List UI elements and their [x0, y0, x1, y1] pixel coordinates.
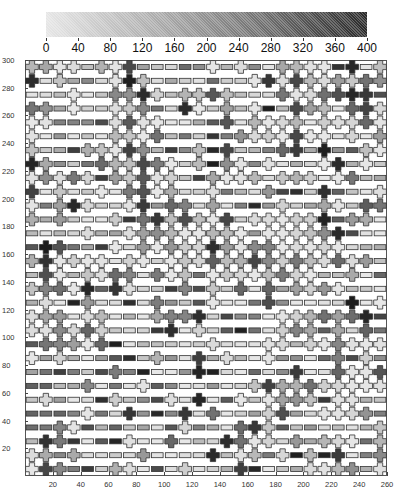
cross-glyph [109, 393, 122, 406]
colorbar-tick-label: 80 [104, 41, 117, 55]
cross-glyph [67, 61, 80, 74]
cross-glyph [290, 269, 303, 282]
bar-glyph [249, 314, 261, 319]
cross-glyph [360, 102, 373, 115]
bar-glyph [151, 286, 163, 291]
bar-glyph [54, 300, 66, 305]
bar-glyph [346, 231, 358, 236]
cross-glyph [53, 199, 66, 212]
cross-glyph [67, 88, 80, 101]
cross-glyph [207, 171, 220, 184]
cross-glyph [123, 227, 136, 240]
cross-glyph [360, 144, 373, 157]
cross-glyph [276, 241, 289, 254]
cross-glyph [248, 255, 261, 268]
bar-glyph [263, 106, 275, 111]
cross-glyph [262, 338, 275, 351]
colorbar-tick-label: 200 [196, 41, 216, 55]
bar-glyph [151, 370, 163, 375]
y-tick-label: 120 [2, 305, 15, 314]
cross-glyph [276, 379, 289, 392]
bar-glyph [235, 203, 247, 208]
x-tick [53, 472, 54, 476]
y-tick [25, 171, 28, 172]
bar-glyph [68, 314, 80, 319]
cross-glyph [81, 407, 94, 420]
cross-glyph [137, 227, 150, 240]
y-tick [25, 254, 28, 255]
bar-glyph [151, 328, 163, 333]
bar-glyph [193, 120, 205, 125]
bar-glyph [249, 411, 261, 416]
bar-glyph [291, 342, 303, 347]
bar-glyph [137, 328, 149, 333]
cross-glyph [290, 88, 303, 101]
bar-glyph [221, 411, 233, 416]
bar-glyph [193, 189, 205, 194]
cross-glyph [304, 171, 317, 184]
x-tick-label: 240 [353, 480, 366, 489]
y-tick-label: 60 [2, 388, 10, 397]
y-tick [25, 88, 28, 89]
bar-glyph [360, 286, 372, 291]
bar-glyph [374, 217, 386, 222]
bar-glyph [360, 397, 372, 402]
cross-glyph [221, 435, 234, 448]
cross-glyph [248, 130, 261, 143]
cross-glyph [193, 88, 206, 101]
bar-glyph [193, 286, 205, 291]
bar-glyph [374, 356, 386, 361]
bar-glyph [332, 148, 344, 153]
cross-glyph [248, 213, 261, 226]
bar-glyph [82, 467, 94, 472]
cross-glyph [346, 393, 359, 406]
cross-glyph [40, 171, 53, 184]
bar-glyph [68, 439, 80, 444]
bar-glyph [207, 370, 219, 375]
cross-glyph [137, 213, 150, 226]
bar-glyph [249, 231, 261, 236]
cross-glyph [290, 227, 303, 240]
bar-glyph [305, 162, 317, 167]
cross-glyph [67, 255, 80, 268]
cross-glyph [81, 338, 94, 351]
bar-glyph [54, 148, 66, 153]
bar-glyph [26, 370, 38, 375]
y-tick-label: 140 [2, 277, 15, 286]
cross-glyph [332, 158, 345, 171]
bar-glyph [249, 162, 261, 167]
cross-glyph [193, 241, 206, 254]
bar-glyph [179, 356, 191, 361]
cross-glyph [290, 144, 303, 157]
x-tick [331, 472, 332, 476]
cross-glyph [318, 213, 331, 226]
cross-glyph [360, 158, 373, 171]
cross-glyph [151, 269, 164, 282]
bar-glyph [235, 383, 247, 388]
cross-glyph [193, 144, 206, 157]
x-tick-label: 100 [158, 480, 171, 489]
bar-glyph [193, 272, 205, 277]
cross-glyph [40, 102, 53, 115]
bar-glyph [235, 411, 247, 416]
cross-glyph [248, 449, 261, 462]
cross-glyph [276, 449, 289, 462]
cross-glyph [374, 296, 387, 309]
bar-glyph [360, 231, 372, 236]
cross-glyph [318, 74, 331, 87]
cross-glyph [151, 213, 164, 226]
cross-glyph [262, 213, 275, 226]
cross-glyph [360, 213, 373, 226]
cross-glyph [346, 116, 359, 129]
bar-glyph [305, 148, 317, 153]
bar-glyph [96, 286, 108, 291]
bar-glyph [360, 245, 372, 250]
cross-glyph [276, 338, 289, 351]
bar-glyph [277, 189, 289, 194]
cross-glyph [151, 130, 164, 143]
x-tick-label: 140 [214, 480, 227, 489]
bar-glyph [40, 134, 52, 139]
cross-glyph [123, 130, 136, 143]
bar-glyph [277, 286, 289, 291]
bar-glyph [151, 439, 163, 444]
